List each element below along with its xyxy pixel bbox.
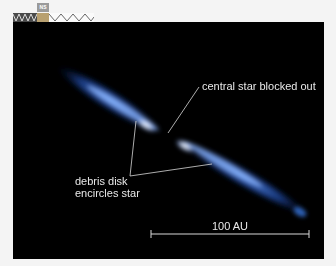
- zoom-ruler[interactable]: [13, 13, 94, 22]
- debris-disk-image: central star blocked out debris disk enc…: [13, 22, 324, 259]
- debris-disk-label: debris disk encircles star: [75, 175, 140, 199]
- debris-disk-label-line2: encircles star: [75, 187, 140, 199]
- debris-disk-label-line1: debris disk: [75, 175, 140, 187]
- debris-pointer-line-upper: [130, 121, 136, 176]
- scale-bar-label: 100 AU: [210, 220, 250, 232]
- nav-widget-slider[interactable]: [37, 13, 49, 22]
- nav-widget-label: NS: [37, 3, 49, 12]
- debris-pointer-line-lower: [130, 164, 212, 176]
- central-star-label: central star blocked out: [202, 80, 316, 92]
- central-star-pointer-line: [168, 87, 199, 133]
